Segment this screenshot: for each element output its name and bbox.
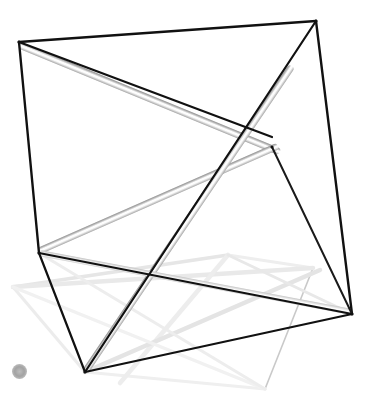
vertex-group (17, 19, 353, 373)
ghost-bottom-rail (85, 372, 265, 389)
ghost-diag-d (13, 287, 265, 389)
edge-top-diag-a (19, 42, 272, 137)
edge-right-fan (272, 147, 352, 314)
v-bottom-left[interactable] (83, 370, 86, 373)
edge-left-post (19, 42, 39, 253)
edge-top-diag-b (85, 21, 316, 372)
v-top-right[interactable] (314, 19, 317, 22)
scene-viewport[interactable] (0, 0, 381, 417)
wireframe-canvas[interactable] (0, 0, 381, 417)
v-mid-right[interactable] (270, 145, 273, 148)
strut-left-sweep (38, 143, 280, 254)
v-mid-left[interactable] (37, 251, 40, 254)
dark-edge-group (19, 21, 352, 372)
edge-bottom-rail (85, 314, 352, 372)
v-top-left[interactable] (17, 40, 20, 43)
ghost-edge-group (13, 253, 352, 389)
edge-top-rail (19, 21, 316, 42)
origin-marker-dot[interactable] (12, 364, 27, 379)
v-bottom-right[interactable] (350, 312, 353, 315)
